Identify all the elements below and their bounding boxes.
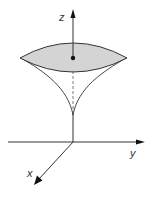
center-point [71,56,75,60]
x-axis [39,142,73,179]
z-axis-label: z [58,11,65,23]
y-axis-label: y [129,147,137,159]
x-axis-label: x [26,167,33,179]
z-axis-arrow-icon [71,9,76,18]
y-axis-arrow-icon [136,140,145,145]
funnel-surface-diagram: z y x [0,0,150,197]
